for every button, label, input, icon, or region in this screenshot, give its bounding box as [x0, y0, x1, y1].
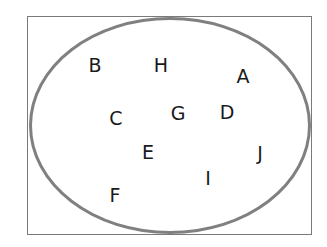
- element-label: E: [142, 143, 154, 162]
- element-label: B: [88, 56, 101, 75]
- element-label: I: [205, 169, 211, 188]
- set-ellipse: [29, 17, 311, 234]
- element-label: D: [220, 103, 235, 122]
- element-label: J: [257, 144, 263, 163]
- element-label: F: [110, 186, 121, 205]
- element-label: H: [154, 56, 168, 75]
- element-label: C: [109, 109, 122, 128]
- element-label: G: [171, 104, 186, 123]
- element-label: A: [237, 67, 250, 86]
